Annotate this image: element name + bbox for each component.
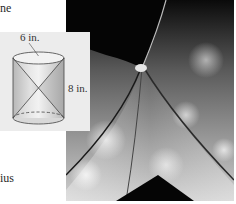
diameter-label: 6 in. (20, 31, 40, 43)
height-label: 8 in. (68, 82, 88, 94)
text-fragment-bottom: ius (0, 172, 14, 184)
hourglass-image-icon (66, 0, 234, 201)
text-fragment-top: ne (0, 2, 11, 14)
diagram-inset: 6 in. 8 in. (0, 32, 90, 131)
hourglass-photo (66, 0, 234, 201)
